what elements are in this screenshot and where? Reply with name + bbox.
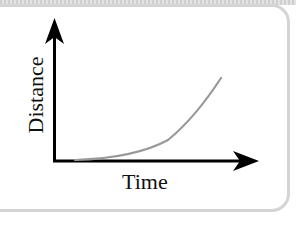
y-axis-label: Distance: [23, 57, 49, 134]
x-axis-label: Time: [122, 169, 168, 195]
distance-curve: [75, 78, 221, 160]
